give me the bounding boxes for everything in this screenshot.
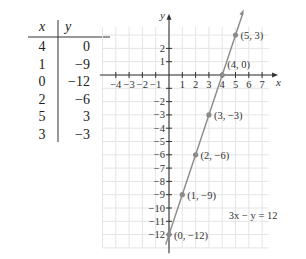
x-tick-label: 7 xyxy=(259,79,264,90)
graph-line-arrow xyxy=(239,9,244,16)
y-tick-label: −3 xyxy=(154,109,165,120)
data-point-label: (1, −9) xyxy=(187,190,216,202)
data-point-label: (2, −6) xyxy=(201,150,230,162)
y-tick-label: −7 xyxy=(154,163,165,174)
y-axis-label: y xyxy=(159,9,165,21)
x-tick-label: 2 xyxy=(193,79,198,90)
y-tick-label: −4 xyxy=(154,123,166,134)
data-point xyxy=(166,232,171,237)
data-point-label: (5, 3) xyxy=(241,30,264,42)
data-point xyxy=(193,152,198,157)
y-tick-label: −2 xyxy=(154,96,165,107)
y-tick-label: −5 xyxy=(154,136,165,147)
y-tick-label: −9 xyxy=(154,189,165,200)
data-point-label: (0, −12) xyxy=(174,230,208,242)
x-axis-label: x xyxy=(275,76,281,88)
data-point-label: (4, 0) xyxy=(227,59,250,71)
y-tick-label: −8 xyxy=(154,176,165,187)
x-tick-label: 5 xyxy=(233,79,238,90)
equation-label: 3x − y = 12 xyxy=(229,210,278,221)
coordinate-graph: xy−4−3−2−1123456721−2−3−4−5−6−7−8−9−10−1… xyxy=(0,0,306,259)
data-point xyxy=(180,192,185,197)
x-tick-label: 6 xyxy=(246,79,251,90)
y-tick-label: −12 xyxy=(149,229,165,240)
data-point xyxy=(206,112,211,117)
x-tick-label: −3 xyxy=(124,79,135,90)
x-tick-label: −4 xyxy=(110,79,122,90)
x-tick-label: −2 xyxy=(137,79,148,90)
data-point-label: (3, −3) xyxy=(214,110,243,122)
y-tick-label: −6 xyxy=(154,149,165,160)
x-tick-label: −1 xyxy=(150,79,161,90)
y-axis-arrow xyxy=(167,14,172,20)
y-tick-label: −10 xyxy=(149,203,165,214)
y-tick-label: −11 xyxy=(149,216,165,227)
x-tick-label: 3 xyxy=(206,79,211,90)
x-tick-label: 1 xyxy=(180,79,185,90)
data-point xyxy=(233,33,238,38)
data-point xyxy=(220,72,225,77)
y-tick-label: 1 xyxy=(160,56,165,67)
y-tick-label: 2 xyxy=(160,43,165,54)
